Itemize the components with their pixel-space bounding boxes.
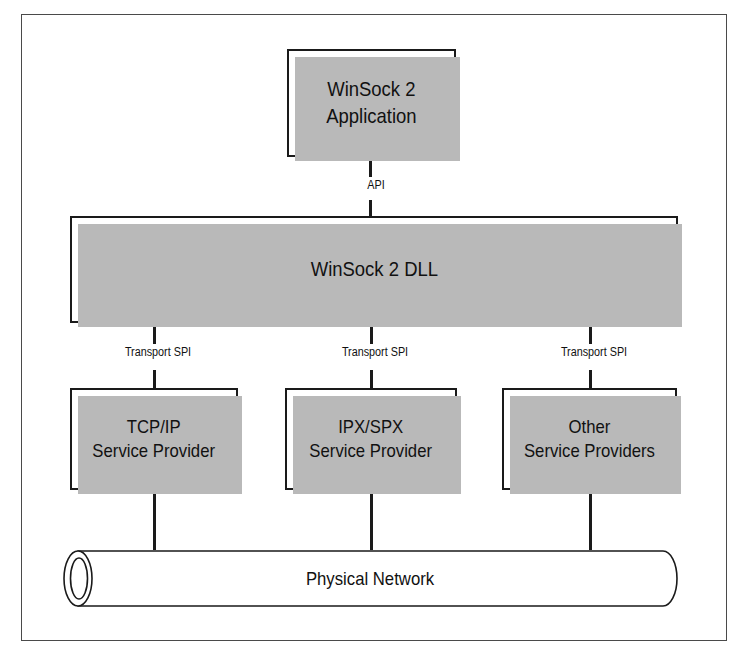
node-label-ipxspx: IPX/SPX Service Provider	[310, 415, 433, 464]
connector-spi-2-lower	[370, 370, 373, 388]
connector-api-lower	[369, 200, 372, 216]
connector-network-2	[370, 490, 373, 550]
node-physical-network: Physical Network	[62, 549, 678, 608]
node-label-other: Other Service Providers	[524, 415, 655, 464]
edge-label-transport-spi-2: Transport SPI	[329, 344, 421, 360]
connector-spi-1-lower	[153, 370, 156, 388]
node-tcpip-service-provider: TCP/IP Service Provider	[70, 388, 238, 490]
node-winsock2-application: WinSock 2 Application	[287, 49, 456, 157]
node-winsock2-dll: WinSock 2 DLL	[70, 216, 678, 323]
edge-label-api: API	[354, 177, 397, 193]
edge-label-transport-spi-1: Transport SPI	[112, 344, 204, 360]
winsock-architecture-diagram: WinSock 2 Application API WinSock 2 DLL …	[0, 0, 747, 656]
connector-spi-3-lower	[589, 370, 592, 388]
node-ipxspx-service-provider: IPX/SPX Service Provider	[285, 388, 457, 490]
node-label-dll: WinSock 2 DLL	[310, 256, 437, 283]
connector-network-3	[589, 490, 592, 550]
cylinder-shape	[62, 549, 678, 608]
node-label-application: WinSock 2 Application	[326, 76, 416, 130]
connector-network-1	[153, 490, 156, 550]
node-other-service-providers: Other Service Providers	[502, 388, 677, 490]
node-label-tcpip: TCP/IP Service Provider	[93, 415, 216, 464]
edge-label-transport-spi-3: Transport SPI	[548, 344, 640, 360]
